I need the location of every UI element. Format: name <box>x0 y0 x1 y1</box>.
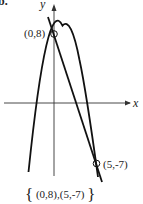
point-label-5-neg7: (5,-7) <box>103 158 128 170</box>
x-axis-arrow-icon <box>125 101 131 106</box>
point-label-0-8: (0,8) <box>24 27 45 39</box>
close-brace: } <box>87 185 95 204</box>
parabola-curve <box>29 21 99 177</box>
open-brace: { <box>25 185 33 204</box>
solution-set-content: (0,8),(5,-7) <box>36 188 85 200</box>
y-axis-arrow-icon <box>52 4 57 11</box>
solution-set: { (0,8),(5,-7) } <box>25 185 95 204</box>
graph-canvas <box>0 0 143 204</box>
